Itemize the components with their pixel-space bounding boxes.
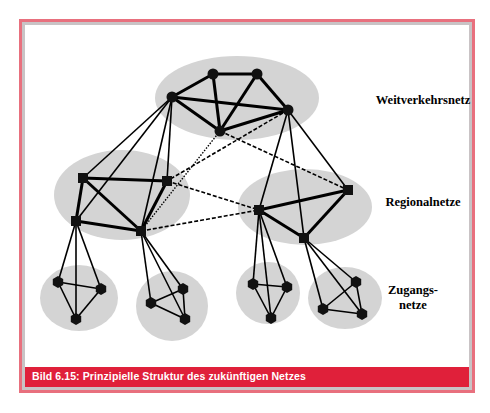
cluster-layer [40, 56, 382, 341]
regional-node-icon [162, 176, 172, 186]
regional-node-icon [343, 185, 353, 195]
regional-node-icon [71, 216, 81, 226]
regional-node-icon [136, 226, 146, 236]
label-core-network: Weitverkehrsnetz [373, 93, 473, 108]
core-node-icon [167, 92, 178, 103]
label-access-line1: Zugangs- [373, 283, 453, 298]
core-node-icon [252, 69, 263, 80]
regional-node-icon [78, 173, 88, 183]
regional-node-icon [299, 233, 309, 243]
core-node-icon [208, 69, 219, 80]
label-access-line2: netze [373, 298, 453, 313]
label-regional-networks: Regionalnetze [373, 195, 473, 210]
core-node-icon [283, 105, 294, 116]
cluster-access-4 [308, 267, 382, 329]
regional-node-icon [254, 205, 264, 215]
label-access-networks: Zugangs- netze [373, 283, 453, 313]
core-node-icon [215, 126, 226, 137]
